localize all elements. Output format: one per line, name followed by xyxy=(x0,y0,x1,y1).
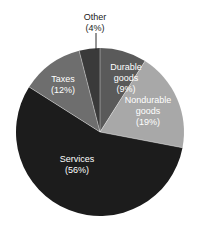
slice-label-line: Services xyxy=(60,154,95,164)
slice-label-line: (19%) xyxy=(136,117,160,127)
slice-label-other: Other(4%) xyxy=(84,12,107,33)
slice-label-line: (56%) xyxy=(65,165,89,175)
slice-label-line: goods xyxy=(136,106,161,116)
pie-chart-canvas: Durablegoods(9%)Nondurablegoods(19%)Serv… xyxy=(0,0,198,227)
slice-label-taxes: Taxes(12%) xyxy=(51,74,75,95)
slice-label-line: (12%) xyxy=(51,85,75,95)
slice-label-line: Other xyxy=(84,12,107,22)
slice-label-line: (9%) xyxy=(116,84,135,94)
slice-label-line: (4%) xyxy=(85,23,104,33)
slice-label-line: goods xyxy=(114,73,139,83)
slice-label-line: Taxes xyxy=(51,74,75,84)
slice-label-line: Nondurable xyxy=(125,95,172,105)
slice-label-line: Durable xyxy=(110,62,142,72)
pie-chart-figure: Durablegoods(9%)Nondurablegoods(19%)Serv… xyxy=(0,0,198,227)
